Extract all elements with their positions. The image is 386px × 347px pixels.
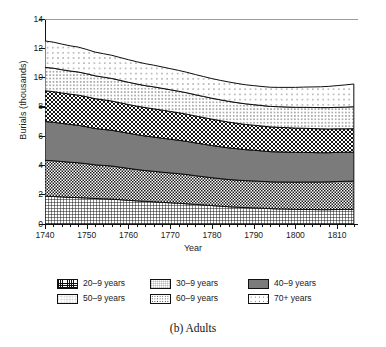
x-tick-mark-minor bbox=[237, 224, 238, 227]
x-tick-mark-minor bbox=[287, 224, 288, 227]
x-tick-label: 1740 bbox=[28, 231, 62, 240]
legend-swatch bbox=[57, 279, 78, 289]
legend-swatch bbox=[150, 279, 171, 289]
x-tick-mark-major bbox=[295, 224, 296, 229]
x-tick-mark-minor bbox=[70, 224, 71, 227]
x-tick-mark-minor bbox=[154, 224, 155, 227]
x-tick-mark-minor bbox=[103, 224, 104, 227]
x-tick-mark-major bbox=[170, 224, 171, 229]
x-tick-label: 1810 bbox=[320, 231, 354, 240]
x-tick-mark-minor bbox=[229, 224, 230, 227]
legend-item[interactable]: 20–9 years bbox=[57, 279, 150, 289]
x-tick-mark-minor bbox=[95, 224, 96, 227]
x-tick-mark-minor bbox=[345, 224, 346, 227]
y-tick-label: 14 bbox=[34, 15, 43, 24]
x-tick-mark-minor bbox=[162, 224, 163, 227]
x-tick-mark-minor bbox=[270, 224, 271, 227]
x-tick-mark-minor bbox=[195, 224, 196, 227]
legend-label: 30–9 years bbox=[176, 279, 218, 288]
area-bands bbox=[45, 41, 354, 224]
legend: 20–9 years30–9 years40–9 years50–9 years… bbox=[57, 276, 347, 306]
x-tick-label: 1750 bbox=[70, 231, 104, 240]
x-axis-title: Year bbox=[0, 243, 386, 253]
legend-label: 50–9 years bbox=[83, 294, 125, 303]
x-tick-mark-major bbox=[337, 224, 338, 229]
x-tick-mark-major bbox=[128, 224, 129, 229]
x-tick-mark-major bbox=[87, 224, 88, 229]
x-tick-mark-minor bbox=[62, 224, 63, 227]
y-tick-label: 8 bbox=[38, 102, 43, 111]
x-tick-mark-minor bbox=[78, 224, 79, 227]
figure-adults-burials: Burials (thousands) Year 20–9 years30–9 … bbox=[0, 0, 386, 347]
x-tick-mark-minor bbox=[120, 224, 121, 227]
x-tick-mark-minor bbox=[220, 224, 221, 227]
x-tick-mark-minor bbox=[187, 224, 188, 227]
x-axis-line bbox=[45, 224, 358, 225]
x-tick-label: 1770 bbox=[153, 231, 187, 240]
y-tick-label: 12 bbox=[34, 44, 43, 53]
legend-label: 40–9 years bbox=[274, 279, 316, 288]
legend-label: 70+ years bbox=[274, 294, 312, 303]
legend-swatch bbox=[150, 294, 171, 304]
y-tick-label: 0 bbox=[38, 220, 43, 229]
x-tick-mark-minor bbox=[245, 224, 246, 227]
x-tick-mark-minor bbox=[137, 224, 138, 227]
x-tick-mark-minor bbox=[112, 224, 113, 227]
x-tick-mark-minor bbox=[279, 224, 280, 227]
x-tick-mark-major bbox=[254, 224, 255, 229]
legend-swatch bbox=[57, 294, 78, 304]
x-tick-label: 1790 bbox=[237, 231, 271, 240]
x-tick-mark-minor bbox=[320, 224, 321, 227]
x-tick-mark-minor bbox=[354, 224, 355, 227]
x-tick-mark-major bbox=[212, 224, 213, 229]
legend-item[interactable]: 30–9 years bbox=[150, 279, 248, 289]
legend-item[interactable]: 40–9 years bbox=[248, 279, 347, 289]
legend-swatch bbox=[248, 294, 269, 304]
x-tick-mark-minor bbox=[53, 224, 54, 227]
legend-label: 60–9 years bbox=[176, 294, 218, 303]
x-tick-label: 1760 bbox=[111, 231, 145, 240]
legend-item[interactable]: 70+ years bbox=[248, 294, 347, 304]
x-tick-label: 1780 bbox=[195, 231, 229, 240]
legend-swatch bbox=[248, 279, 269, 289]
y-tick-label: 10 bbox=[34, 73, 43, 82]
y-tick-label: 6 bbox=[38, 132, 43, 141]
x-tick-mark-minor bbox=[304, 224, 305, 227]
stacked-area-series bbox=[45, 19, 358, 224]
y-tick-label: 4 bbox=[38, 161, 43, 170]
x-tick-mark-minor bbox=[145, 224, 146, 227]
legend-label: 20–9 years bbox=[83, 279, 125, 288]
x-tick-mark-minor bbox=[179, 224, 180, 227]
x-tick-label: 1800 bbox=[278, 231, 312, 240]
x-tick-mark-minor bbox=[204, 224, 205, 227]
y-tick-label: 2 bbox=[38, 190, 43, 199]
legend-item[interactable]: 50–9 years bbox=[57, 294, 150, 304]
figure-caption: (b) Adults bbox=[0, 322, 386, 334]
y-axis-title: Burials (thousands) bbox=[18, 25, 28, 175]
x-tick-mark-minor bbox=[312, 224, 313, 227]
legend-item[interactable]: 60–9 years bbox=[150, 294, 248, 304]
x-tick-mark-minor bbox=[329, 224, 330, 227]
x-tick-mark-major bbox=[45, 224, 46, 229]
x-tick-mark-minor bbox=[262, 224, 263, 227]
